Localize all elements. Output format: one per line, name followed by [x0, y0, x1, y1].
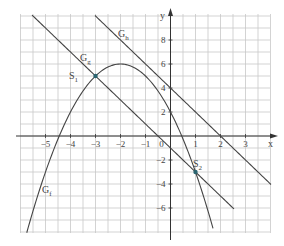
y-tick-label: 6: [161, 59, 166, 69]
function-graph-diagram: xy −5−4−3−2−101238642−2−4−6 GfGgGhS1S2: [0, 0, 284, 246]
x-tick-label: −3: [91, 139, 101, 149]
x-tick-label: −1: [141, 139, 151, 149]
label-g-f: Gf: [42, 184, 52, 198]
y-tick-label: 2: [161, 107, 166, 117]
y-axis-label: y: [160, 10, 165, 21]
x-tick-label: 3: [243, 139, 248, 149]
y-tick-label: −6: [156, 203, 166, 213]
x-tick-label: −2: [116, 139, 126, 149]
y-tick-label: 8: [161, 35, 166, 45]
point-s2: [193, 170, 197, 174]
y-tick-label: −4: [156, 179, 166, 189]
y-axis-arrow-icon: [168, 8, 173, 16]
x-tick-label: 0: [159, 139, 164, 149]
x-tick-label: −4: [66, 139, 76, 149]
x-tick-label: 1: [193, 139, 198, 149]
y-tick-label: −2: [156, 155, 166, 165]
point-s1: [93, 74, 97, 78]
x-tick-label: 2: [218, 139, 223, 149]
x-axis-label: x: [268, 138, 273, 149]
x-tick-label: −5: [41, 139, 51, 149]
y-tick-label: 4: [161, 83, 166, 93]
